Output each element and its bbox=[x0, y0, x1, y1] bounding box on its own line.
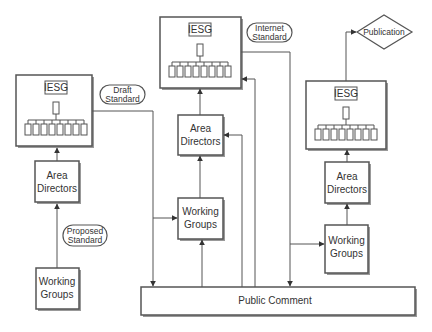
svg-text:Groups: Groups bbox=[330, 248, 363, 259]
svg-text:Area: Area bbox=[336, 171, 358, 182]
internet-standard-label: Internet Standard bbox=[247, 23, 292, 42]
svg-text:Groups: Groups bbox=[184, 219, 217, 230]
arrow-pc-to-ad-middle bbox=[224, 135, 242, 287]
svg-text:Working: Working bbox=[182, 206, 219, 217]
publication-diamond: Publication bbox=[357, 15, 412, 49]
svg-text:Area: Area bbox=[46, 170, 68, 181]
area-directors-box-middle: Area Directors bbox=[178, 115, 225, 157]
svg-text:Public Comment: Public Comment bbox=[238, 295, 312, 306]
standards-process-diagram: IESG Area Directors Working Groups Propo… bbox=[0, 0, 432, 332]
arrow-iesg-to-publication bbox=[346, 32, 356, 81]
svg-text:Area: Area bbox=[190, 123, 212, 134]
iesg-label: IESG bbox=[188, 24, 212, 35]
svg-text:Working: Working bbox=[39, 276, 76, 287]
svg-text:Directors: Directors bbox=[37, 183, 77, 194]
iesg-box-left: IESG bbox=[16, 75, 94, 148]
svg-text:Working: Working bbox=[328, 235, 365, 246]
svg-text:Standard: Standard bbox=[105, 94, 140, 104]
proposed-standard-label: Proposed Standard bbox=[63, 225, 107, 246]
arrow-iesg-middle-to-public-comment bbox=[241, 52, 290, 286]
iesg-label: IESG bbox=[334, 88, 358, 99]
iesg-label: IESG bbox=[44, 82, 68, 93]
public-comment-box: Public Comment bbox=[141, 287, 417, 317]
svg-text:Standard: Standard bbox=[252, 32, 287, 42]
iesg-box-right: IESG bbox=[306, 81, 388, 151]
svg-text:Standard: Standard bbox=[68, 235, 103, 245]
svg-text:Directors: Directors bbox=[327, 184, 367, 195]
svg-text:Groups: Groups bbox=[41, 289, 74, 300]
svg-text:Directors: Directors bbox=[180, 136, 220, 147]
iesg-box-middle: IESG bbox=[160, 17, 243, 90]
working-groups-box-left: Working Groups bbox=[36, 268, 81, 311]
area-directors-box-left: Area Directors bbox=[35, 161, 81, 204]
arrow-iesg-left-to-public-comment bbox=[92, 111, 153, 286]
working-groups-box-middle: Working Groups bbox=[178, 198, 225, 241]
draft-standard-label: Draft Standard bbox=[100, 85, 145, 104]
area-directors-box-right: Area Directors bbox=[325, 162, 371, 205]
working-groups-box-right: Working Groups bbox=[325, 225, 370, 275]
svg-text:Publication: Publication bbox=[363, 27, 405, 37]
arrow-pc-to-iesg-middle bbox=[242, 79, 255, 287]
